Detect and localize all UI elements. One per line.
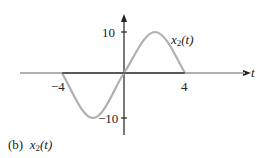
plot-canvas [0,0,263,158]
x-tick-label-neg4: −4 [51,80,65,93]
x2-curve [20,32,245,118]
caption: (b) x2(t) [8,138,52,153]
y-axis-arrow-icon [121,14,127,22]
t-axis-label: t [251,66,255,79]
y-tick-label-10: 10 [102,26,115,39]
x-tick-label-4: 4 [181,80,188,93]
y-tick-label-neg10: −10 [98,112,118,125]
curve-label: x2(t) [171,33,194,48]
